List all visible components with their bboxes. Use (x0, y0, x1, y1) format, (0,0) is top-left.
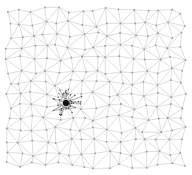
edge (180, 33, 181, 47)
node (72, 117, 74, 119)
node (18, 24, 20, 26)
node (92, 127, 94, 129)
edge (93, 47, 105, 57)
node (70, 79, 72, 81)
edge (105, 45, 120, 46)
node (108, 104, 110, 106)
node (106, 141, 108, 143)
node (81, 80, 83, 82)
edge (171, 83, 181, 97)
edge (119, 155, 131, 164)
edge (30, 12, 46, 21)
edge (10, 118, 21, 119)
edge (132, 109, 134, 117)
edge (19, 25, 33, 26)
node (46, 129, 48, 131)
edge (110, 82, 118, 95)
edge (85, 34, 86, 50)
node (172, 37, 174, 39)
edge (81, 81, 82, 94)
edge (168, 22, 172, 38)
cluster-node (71, 112, 72, 113)
node (171, 9, 173, 11)
edge (80, 131, 95, 139)
edge (56, 24, 57, 34)
hub-node (63, 100, 69, 106)
edge (161, 132, 169, 139)
node (6, 161, 8, 163)
edge (168, 14, 180, 22)
node (155, 44, 157, 46)
edge (43, 34, 58, 35)
edge (161, 118, 167, 132)
edge (158, 10, 172, 11)
node (22, 152, 24, 154)
node (181, 108, 183, 110)
node (84, 117, 86, 119)
node (31, 115, 33, 117)
edge (61, 58, 72, 61)
node (160, 59, 162, 61)
edge (48, 34, 58, 46)
node (104, 45, 106, 47)
cluster-node (63, 93, 64, 94)
node (29, 91, 31, 93)
edge (20, 94, 21, 104)
node (19, 103, 21, 105)
edge (35, 59, 45, 71)
node (106, 23, 108, 25)
cluster-node (61, 108, 62, 109)
edge (147, 151, 160, 152)
edge (19, 25, 34, 36)
edge (32, 26, 34, 36)
cluster-node (65, 92, 66, 93)
edge (119, 104, 121, 115)
edge (81, 108, 97, 109)
edge (45, 61, 61, 71)
node (179, 152, 181, 154)
edge (61, 61, 73, 72)
edge (71, 58, 73, 72)
node (30, 103, 32, 105)
node (144, 21, 146, 23)
node (92, 168, 94, 170)
node (118, 8, 120, 10)
edge (109, 104, 121, 105)
edge (119, 164, 133, 168)
node (71, 138, 73, 140)
edge (7, 128, 18, 142)
edge (22, 59, 35, 71)
node (68, 12, 70, 14)
edge (85, 34, 94, 47)
node (70, 129, 72, 131)
edge (59, 61, 61, 73)
edge (81, 92, 92, 94)
edge (20, 56, 22, 71)
node (33, 35, 35, 37)
edge (8, 10, 19, 12)
node (81, 139, 83, 141)
edge (55, 80, 71, 86)
node (60, 119, 62, 121)
edge (121, 72, 132, 73)
edge (31, 104, 32, 116)
edge (118, 94, 132, 95)
node (19, 166, 21, 168)
node (20, 93, 22, 95)
node (10, 83, 12, 85)
node (106, 129, 108, 131)
node (159, 150, 161, 152)
edge (6, 94, 10, 108)
edge (182, 94, 186, 109)
node (7, 11, 9, 13)
edge (135, 128, 144, 139)
node (92, 120, 94, 122)
edge (45, 58, 47, 71)
node (84, 49, 86, 51)
node (179, 13, 181, 15)
node (181, 138, 183, 140)
node (144, 59, 146, 61)
edge (73, 109, 81, 118)
edge (73, 71, 86, 72)
node (181, 70, 183, 72)
